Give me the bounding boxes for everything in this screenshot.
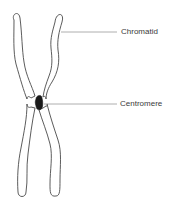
left-chromatid-upper-arm	[13, 14, 35, 99]
right-chromatid-upper-arm	[43, 15, 63, 100]
chromosome-diagram: Chromatid Centromere	[0, 0, 182, 209]
chromatid-label: Chromatid	[121, 28, 158, 36]
right-chromatid-lower-arm	[39, 104, 61, 196]
centromere-label: Centromere	[120, 100, 162, 108]
centromere-blob	[35, 95, 43, 109]
left-chromatid-lower-arm	[18, 104, 35, 197]
